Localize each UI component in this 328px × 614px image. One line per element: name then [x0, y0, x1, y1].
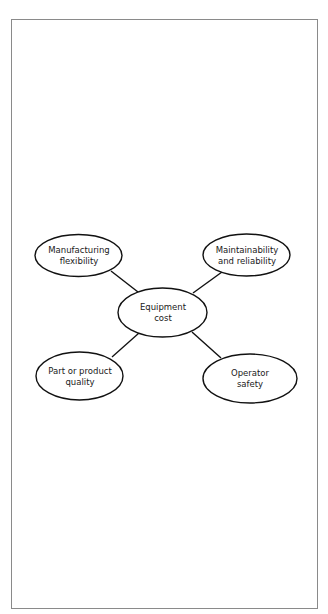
- label-line: flexibility: [48, 255, 110, 266]
- label-line: Operator: [231, 368, 269, 379]
- node-part-product-quality-label: Part or product quality: [48, 366, 112, 387]
- edge-safety-to-cost: [192, 332, 221, 358]
- edge-manufacturing-to-cost: [111, 271, 138, 292]
- label-line: Manufacturing: [48, 245, 110, 256]
- node-operator-safety-label: Operator safety: [231, 368, 269, 389]
- edge-quality-to-cost: [112, 333, 139, 357]
- node-manufacturing-flexibility-label: Manufacturing flexibility: [48, 245, 110, 266]
- node-equipment-cost-label: Equipment cost: [140, 302, 186, 323]
- label-line: Maintainability: [216, 245, 279, 256]
- edge-maintainability-to-cost: [193, 272, 222, 293]
- label-line: Part or product: [48, 366, 112, 377]
- label-line: Equipment: [140, 302, 186, 313]
- label-line: and reliability: [216, 255, 279, 266]
- node-maintainability-reliability-label: Maintainability and reliability: [216, 245, 279, 266]
- label-line: cost: [140, 312, 186, 323]
- label-line: safety: [231, 378, 269, 389]
- label-line: quality: [48, 376, 112, 387]
